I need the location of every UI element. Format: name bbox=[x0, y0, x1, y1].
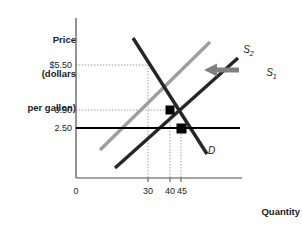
marker-point-45-250 bbox=[177, 124, 187, 134]
curve-label-s2-text: S bbox=[243, 44, 250, 55]
ytick-label-550: $5.50 bbox=[8, 60, 72, 70]
xtick-label-45: 45 bbox=[169, 186, 195, 196]
ytick-label-250: 2.50 bbox=[8, 123, 72, 133]
x-axis-title: Quantity (millions of gallons per month) bbox=[182, 184, 300, 228]
curve-label-s1-text: S bbox=[266, 67, 273, 78]
xtick-label-0: 0 bbox=[63, 186, 89, 196]
ytick-label-350: 3.50 bbox=[8, 105, 72, 115]
y-axis-title-line1: Price bbox=[27, 34, 76, 45]
marker-point-40-350 bbox=[166, 106, 175, 115]
x-axis-title-line1: Quantity bbox=[182, 206, 300, 217]
curve-label-s2: S2 bbox=[232, 33, 254, 68]
chart-canvas: Price (dollars per gallon) Quantity (mil… bbox=[0, 0, 302, 228]
axes-frame bbox=[76, 18, 242, 178]
x-axis-ticks bbox=[148, 178, 181, 182]
curve-label-demand: D bbox=[208, 145, 215, 156]
shift-arrow-head bbox=[204, 64, 217, 77]
y-axis-title: Price (dollars per gallon) bbox=[27, 12, 76, 135]
curve-label-s1-sub: 1 bbox=[273, 73, 277, 80]
curve-label-s1: S1 bbox=[255, 56, 277, 91]
curve-label-s2-sub: 2 bbox=[250, 50, 254, 57]
